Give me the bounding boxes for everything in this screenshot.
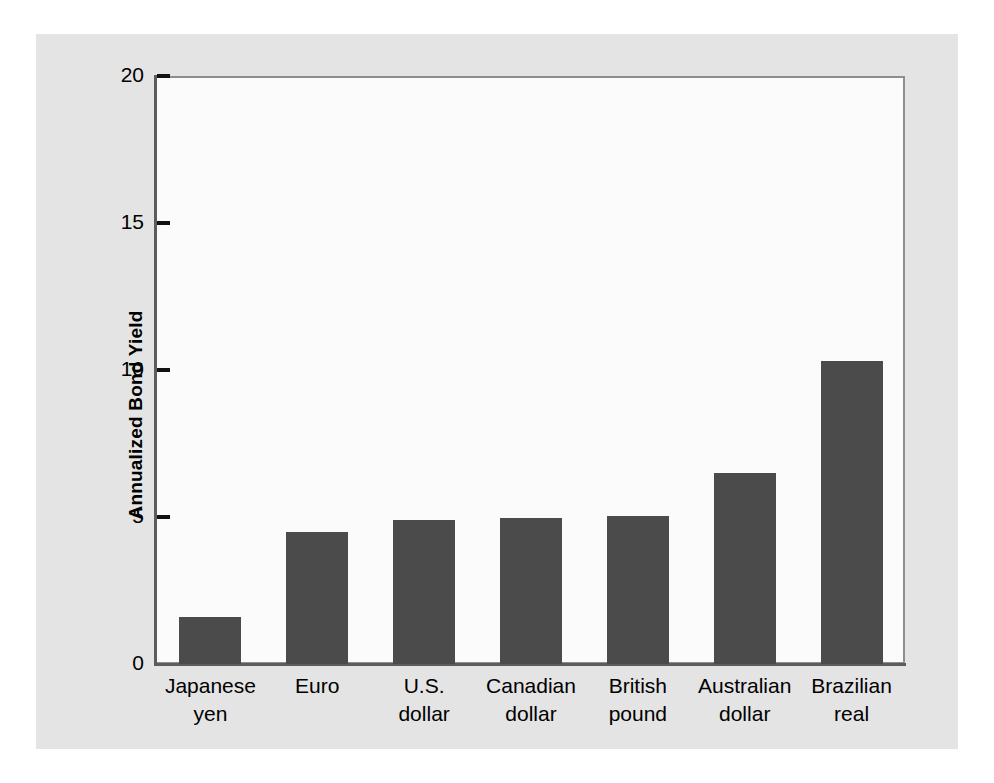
x-axis-label-line: dollar bbox=[691, 700, 798, 728]
x-axis-label: Euro bbox=[264, 672, 371, 700]
x-axis-label-line: yen bbox=[157, 700, 264, 728]
x-axis-label-line: Japanese bbox=[157, 672, 264, 700]
x-axis-label-line: U.S. bbox=[371, 672, 478, 700]
x-axis-labels: JapaneseyenEuroU.S.dollarCanadiandollarB… bbox=[157, 672, 905, 742]
y-axis-title: Annualized Bond Yield bbox=[125, 265, 147, 565]
x-axis-label: Japaneseyen bbox=[157, 672, 264, 727]
x-axis-label: Australiandollar bbox=[691, 672, 798, 727]
bar-slot bbox=[584, 76, 691, 664]
bar-series bbox=[157, 76, 905, 664]
bar[interactable] bbox=[393, 520, 455, 664]
bar-slot bbox=[157, 76, 264, 664]
x-axis-label: Canadiandollar bbox=[478, 672, 585, 727]
bar-slot bbox=[691, 76, 798, 664]
x-axis-label-line: Australian bbox=[691, 672, 798, 700]
x-axis-label-line: British bbox=[584, 672, 691, 700]
bar-slot bbox=[264, 76, 371, 664]
x-axis-label-line: dollar bbox=[371, 700, 478, 728]
x-axis-label: Brazilianreal bbox=[798, 672, 905, 727]
x-axis-label: U.S.dollar bbox=[371, 672, 478, 727]
bar[interactable] bbox=[500, 518, 562, 664]
x-axis-label-line: Canadian bbox=[478, 672, 585, 700]
x-axis-label: Britishpound bbox=[584, 672, 691, 727]
bar[interactable] bbox=[286, 532, 348, 664]
x-axis-label-line: pound bbox=[584, 700, 691, 728]
bar[interactable] bbox=[821, 361, 883, 664]
x-axis-label-line: dollar bbox=[478, 700, 585, 728]
x-axis-label-line: real bbox=[798, 700, 905, 728]
x-axis-label-line: Brazilian bbox=[798, 672, 905, 700]
bar[interactable] bbox=[179, 617, 241, 664]
bar-slot bbox=[371, 76, 478, 664]
x-axis-label-line: Euro bbox=[264, 672, 371, 700]
bar-slot bbox=[478, 76, 585, 664]
bar[interactable] bbox=[607, 516, 669, 664]
bar[interactable] bbox=[714, 473, 776, 664]
figure-canvas: Annualized Bond Yield 05101520 Japanesey… bbox=[0, 0, 994, 783]
bar-slot bbox=[798, 76, 905, 664]
